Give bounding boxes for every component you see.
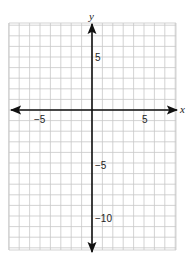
x-tick-label-neg5: −5 (34, 114, 46, 125)
x-axis-label: x (179, 103, 185, 115)
y-tick-label-neg10: −10 (95, 213, 112, 224)
x-tick-label-5: 5 (142, 114, 148, 125)
coordinate-plane: y x −5 5 5 −5 −10 (0, 0, 195, 260)
y-axis-label: y (88, 10, 94, 22)
y-tick-label-5: 5 (95, 52, 101, 63)
y-tick-label-neg5: −5 (95, 160, 107, 171)
